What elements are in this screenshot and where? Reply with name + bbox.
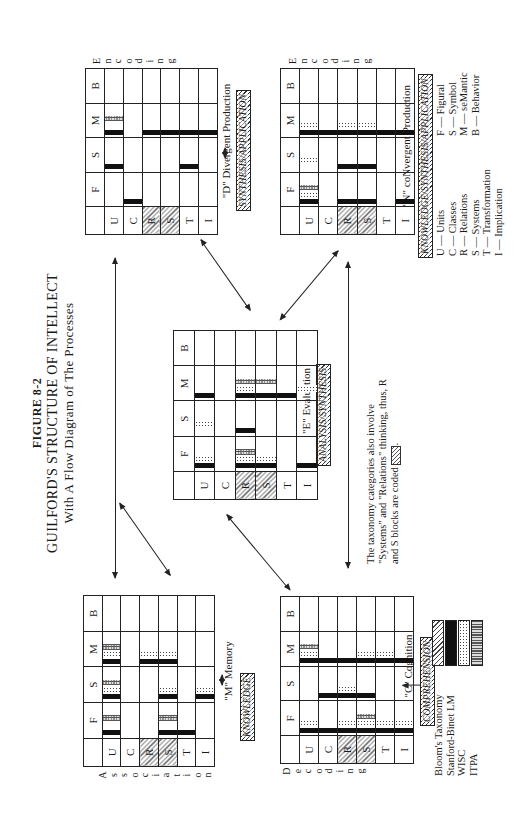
marker-sb	[103, 694, 121, 699]
grid-cell	[300, 666, 319, 701]
grid-cell	[140, 631, 159, 667]
grid-row-s: S	[357, 597, 376, 764]
grid-cell	[300, 631, 319, 666]
grid-cell	[376, 701, 395, 736]
grid-row-i: I	[196, 596, 215, 767]
grid-cell	[142, 103, 161, 138]
marker-wisc	[159, 650, 177, 657]
grid-row-t: T	[180, 69, 199, 235]
marker-sb	[395, 658, 413, 663]
marker-sb	[338, 164, 356, 169]
grid-cell	[338, 69, 357, 104]
column-header-s: S	[281, 666, 300, 701]
grid-cell	[235, 331, 256, 366]
marker-sb	[196, 694, 214, 699]
grid-cell	[376, 69, 395, 104]
marker-wisc	[300, 720, 318, 727]
grid-row-c: C	[123, 69, 142, 235]
marker-sb	[256, 463, 276, 468]
marker-itpa	[103, 680, 121, 686]
grid-row-t: T	[177, 596, 196, 767]
marker-sb	[199, 130, 217, 135]
marker-sb	[357, 658, 375, 663]
grid-cell	[158, 631, 177, 667]
row-label-c: C	[123, 207, 142, 235]
grid-cell	[102, 631, 121, 667]
marker-wisc	[300, 156, 318, 163]
taxonomy-note: The taxonomy categories also involve "Sy…	[365, 324, 401, 564]
marker-sb	[395, 728, 413, 733]
row-label-t: T	[376, 736, 395, 764]
legend-swatch-itpa-icon	[471, 620, 483, 666]
grid-row-s: S	[158, 596, 177, 767]
legend-label-wisc: WISC	[456, 694, 468, 776]
taxonomy-label-evaluation: ANALYSIS/SYNTHESIS	[316, 364, 331, 466]
note-line-1: The taxonomy categories also involve	[365, 324, 377, 564]
grid-cell	[395, 701, 414, 736]
grid-row-t: T	[276, 331, 297, 500]
column-header-m: M	[174, 366, 195, 401]
arrow-memory-evaluation	[120, 503, 171, 576]
grid-cell	[395, 69, 414, 104]
grid-cell	[338, 666, 357, 701]
marker-wisc	[300, 191, 318, 198]
marker-wisc	[338, 685, 356, 692]
row-label-i: I	[196, 738, 215, 766]
figure-subtitle: With A Flow Diagram of The Processes	[61, 0, 77, 826]
marker-sb	[377, 130, 395, 135]
grid-cell	[376, 172, 395, 207]
marker-sb	[338, 693, 356, 698]
corner-cell	[281, 207, 300, 235]
small-double-arrow-memory	[222, 675, 223, 685]
marker-sb	[338, 199, 356, 204]
note-line-3: and S blocks are coded .	[389, 324, 401, 564]
grid-cell	[235, 366, 256, 401]
marker-wisc	[338, 122, 356, 129]
row-label-u: U	[102, 738, 121, 766]
marker-sb	[236, 428, 256, 433]
marker-sb	[376, 658, 394, 663]
marker-sb	[105, 130, 123, 135]
marker-wisc	[358, 122, 376, 129]
legend-swatch-wisc-icon	[458, 620, 470, 666]
grid-cell	[142, 172, 161, 207]
grid-cell	[338, 138, 357, 173]
marker-sb	[124, 199, 142, 204]
marker-sb	[236, 463, 256, 468]
marker-wisc	[195, 420, 215, 427]
row-label-s: S	[357, 736, 376, 764]
grid-cell	[215, 401, 236, 436]
grid-cell	[142, 138, 161, 173]
row-label-s: S	[161, 207, 180, 235]
marker-sb	[161, 130, 179, 135]
column-header-b: B	[281, 597, 300, 632]
column-header-f: F	[281, 172, 300, 207]
grid-cell	[180, 172, 199, 207]
grid-cell	[338, 701, 357, 736]
grid-cell	[102, 596, 121, 632]
row-key-item: T — Transformation	[481, 169, 493, 256]
grid-cell	[338, 103, 357, 138]
marker-sb	[357, 728, 375, 733]
row-label-c: C	[319, 207, 338, 235]
grid-cell	[158, 702, 177, 738]
marker-sb	[180, 164, 198, 169]
marker-itpa	[300, 644, 318, 649]
grid-cell	[376, 597, 395, 632]
grid-cell	[300, 597, 319, 632]
row-label-t: T	[177, 738, 196, 766]
marker-sb	[256, 393, 276, 398]
grid-cell	[338, 597, 357, 632]
grid-cell	[376, 666, 395, 701]
grid-cell	[180, 69, 199, 104]
grid-cell	[140, 702, 159, 738]
grid-cell	[196, 702, 215, 738]
grid-cell	[395, 597, 414, 632]
grid-cell	[194, 401, 215, 436]
soi-grid-convergent: FSMBUCRSTI	[280, 68, 415, 235]
figure-page: FIGURE 8-2 GUILFORD'S STRUCTURE OF INTEL…	[0, 0, 525, 826]
grid-row-i: I	[395, 597, 414, 764]
side-label-encoding-divergent: Encoding	[92, 56, 176, 66]
grid-row-u: U	[300, 597, 319, 764]
grid-row-s: S	[357, 69, 376, 235]
